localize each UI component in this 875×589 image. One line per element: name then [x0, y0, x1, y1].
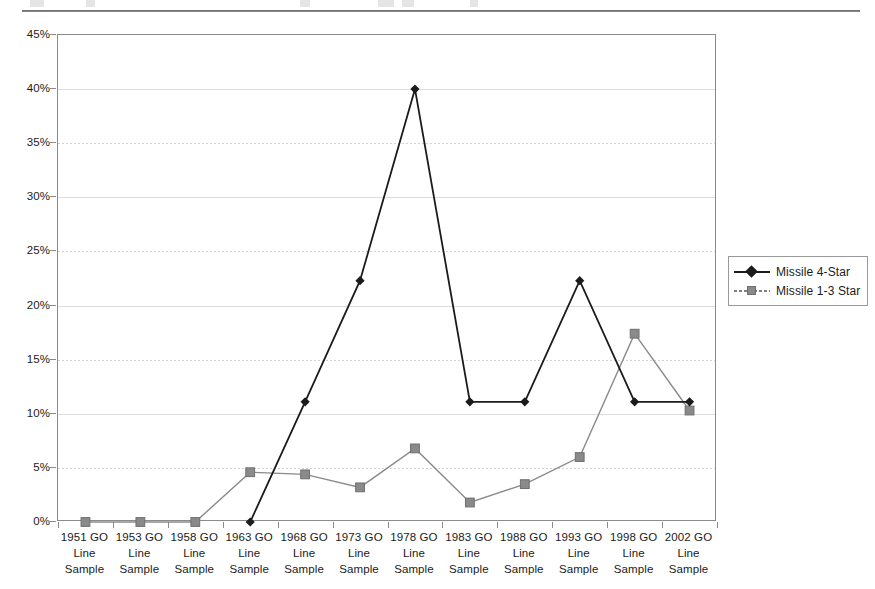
x-axis-tick: [168, 522, 169, 528]
square-marker-icon: [630, 329, 639, 338]
x-axis-tick-label: 1963 GOLineSample: [222, 529, 277, 577]
chart-page: 0%5%10%15%20%25%30%35%40%45% 1951 GOLine…: [0, 0, 875, 589]
square-marker-icon: [465, 498, 474, 507]
x-axis-tick-label: 2002 GOLineSample: [661, 529, 716, 577]
y-axis-tick: [50, 34, 56, 35]
diamond-marker-icon: [246, 517, 255, 526]
y-axis-tick: [50, 142, 56, 143]
y-axis-tick: [50, 521, 56, 522]
square-marker-icon: [191, 518, 200, 527]
plot-area: [57, 34, 716, 521]
y-axis-ticks: [0, 34, 57, 521]
square-marker-icon: [246, 468, 255, 477]
square-marker-icon: [685, 406, 694, 415]
series-layer: [58, 35, 717, 522]
x-axis-tick-label: 1958 GOLineSample: [167, 529, 222, 577]
series-line: [250, 89, 689, 522]
x-axis-tick: [278, 522, 279, 528]
x-axis-tick-label: 1993 GOLineSample: [551, 529, 606, 577]
square-marker-icon: [411, 444, 420, 453]
legend-label: Missile 1-3 Star: [776, 284, 860, 298]
y-axis-tick: [50, 413, 56, 414]
x-axis-tick-label: 1998 GOLineSample: [606, 529, 661, 577]
x-axis-tick-label: 1951 GOLineSample: [57, 529, 112, 577]
diamond-marker-icon: [575, 276, 584, 285]
x-axis-tick: [497, 522, 498, 528]
header-divider-rule: [22, 10, 860, 12]
series-line: [86, 334, 690, 522]
square-marker-icon: [520, 480, 529, 489]
legend-item-missile-4-star[interactable]: Missile 4-Star: [734, 262, 860, 281]
diamond-marker-icon: [734, 266, 770, 277]
x-axis-tick: [223, 522, 224, 528]
chart-legend: Missile 4-Star Missile 1-3 Star: [728, 256, 868, 306]
diamond-marker-icon: [355, 276, 364, 285]
x-axis-tick-label: 1973 GOLineSample: [332, 529, 387, 577]
y-axis-tick: [50, 305, 56, 306]
square-marker-icon: [136, 518, 145, 527]
x-axis-tick: [662, 522, 663, 528]
square-marker-icon: [356, 483, 365, 492]
diamond-marker-icon: [465, 397, 474, 406]
square-marker-icon: [301, 470, 310, 479]
legend-item-missile-1-3-star[interactable]: Missile 1-3 Star: [734, 281, 860, 300]
y-axis-tick: [50, 250, 56, 251]
x-axis-tick: [388, 522, 389, 528]
x-axis-tick-label: 1988 GOLineSample: [496, 529, 551, 577]
x-axis-tick-label: 1983 GOLineSample: [441, 529, 496, 577]
diamond-marker-icon: [301, 397, 310, 406]
x-axis-tick: [58, 522, 59, 528]
square-marker-icon: [81, 518, 90, 527]
x-axis-tick-label: 1968 GOLineSample: [277, 529, 332, 577]
square-marker-icon: [575, 453, 584, 462]
x-axis-tick-label: 1953 GOLineSample: [112, 529, 167, 577]
x-axis-tick-label: 1978 GOLineSample: [387, 529, 442, 577]
y-axis-tick: [50, 88, 56, 89]
square-marker-icon: [734, 285, 770, 296]
y-axis-tick: [50, 467, 56, 468]
x-axis-tick: [607, 522, 608, 528]
x-axis-tick: [333, 522, 334, 528]
diamond-marker-icon: [520, 397, 529, 406]
x-axis-tick: [552, 522, 553, 528]
y-axis-tick: [50, 359, 56, 360]
x-axis-tick: [717, 522, 718, 528]
legend-label: Missile 4-Star: [776, 265, 850, 279]
x-axis-tick: [442, 522, 443, 528]
clipped-text-artifacts: [0, 0, 875, 9]
x-axis-tick: [113, 522, 114, 528]
y-axis-tick: [50, 196, 56, 197]
x-axis-labels: 1951 GOLineSample1953 GOLineSample1958 G…: [57, 529, 716, 587]
diamond-marker-icon: [410, 85, 419, 94]
diamond-marker-icon: [630, 397, 639, 406]
